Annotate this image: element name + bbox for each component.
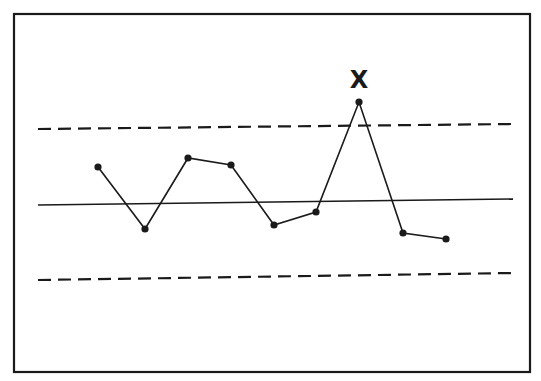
data-point — [442, 235, 449, 242]
data-point — [355, 98, 362, 105]
data-point — [227, 161, 234, 168]
center-line — [38, 199, 513, 205]
chart-frame — [14, 14, 530, 372]
upper-control-limit-line — [38, 124, 513, 129]
data-point — [312, 208, 319, 215]
data-point — [184, 154, 191, 161]
data-point — [141, 225, 148, 232]
data-series-line — [98, 102, 446, 239]
out-of-control-marker: X — [350, 66, 369, 94]
data-point — [270, 221, 277, 228]
control-chart: X — [0, 0, 541, 381]
data-point — [399, 229, 406, 236]
lower-control-limit-line — [38, 273, 513, 280]
data-point — [94, 163, 101, 170]
